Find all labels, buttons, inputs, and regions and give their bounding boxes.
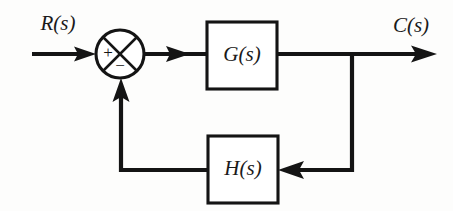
block-diagram-canvas: R(s) + − G(s) C(s) bbox=[0, 0, 453, 211]
summing-junction: + − bbox=[96, 30, 144, 78]
input-signal-label: R(s) bbox=[40, 11, 76, 35]
feedback-return-wire bbox=[121, 92, 208, 170]
summing-junction-plus-sign: + bbox=[103, 43, 113, 62]
forward-block-g: G(s) bbox=[207, 22, 277, 89]
feedback-block-label: H(s) bbox=[223, 156, 261, 180]
feedback-block-h: H(s) bbox=[208, 136, 278, 203]
forward-block-label: G(s) bbox=[223, 42, 260, 66]
output-signal-path bbox=[277, 46, 437, 63]
block-diagram-svg: R(s) + − G(s) C(s) bbox=[0, 0, 453, 211]
feedback-tap-wire bbox=[290, 54, 352, 170]
summing-junction-minus-sign: − bbox=[115, 56, 125, 75]
error-signal-path bbox=[144, 46, 207, 62]
input-signal-path bbox=[32, 47, 96, 62]
feedback-return-path bbox=[113, 78, 209, 170]
feedback-tap-path bbox=[278, 54, 352, 179]
output-signal-label: C(s) bbox=[393, 13, 429, 37]
